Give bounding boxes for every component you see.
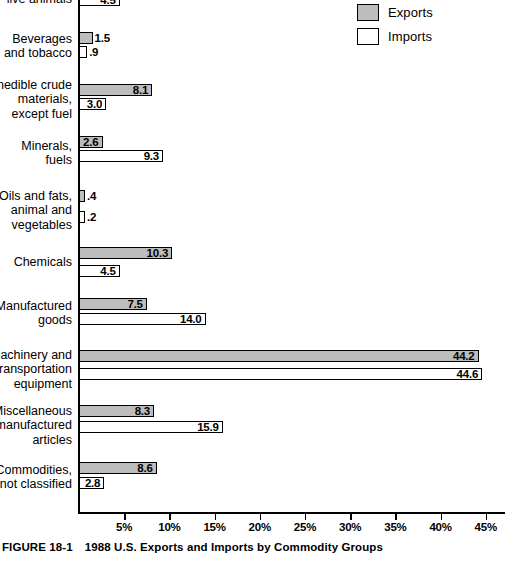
bar-value-label: .4 bbox=[87, 190, 96, 202]
bar-value-label: 44.6 bbox=[457, 368, 479, 380]
x-axis-tick-label: 45% bbox=[475, 521, 497, 533]
bar-value-label: .2 bbox=[87, 211, 96, 223]
bar-value-label: 4.5 bbox=[100, 0, 115, 6]
x-axis-tick bbox=[441, 513, 442, 520]
bar-imports bbox=[79, 211, 85, 223]
bar-value-label: 44.2 bbox=[453, 350, 475, 362]
x-axis-tick bbox=[305, 513, 306, 520]
x-axis-tick-label: 30% bbox=[339, 521, 361, 533]
figure-number: FIGURE 18-1 bbox=[2, 541, 73, 553]
bar-value-label: 2.6 bbox=[83, 136, 98, 148]
category-label: Miscellaneous manufactured articles bbox=[0, 404, 76, 447]
x-axis-tick bbox=[260, 513, 261, 520]
category-label: Minerals, fuels bbox=[0, 139, 76, 168]
bar-imports bbox=[79, 46, 87, 58]
bar-value-label: 8.1 bbox=[133, 84, 148, 96]
bar-exports bbox=[79, 190, 85, 202]
category-label: Machinery and transportation equipment bbox=[0, 348, 76, 391]
category-label: Chemicals bbox=[0, 255, 76, 269]
bar-exports bbox=[79, 32, 93, 44]
bar-value-label: 9.3 bbox=[144, 150, 159, 162]
x-axis-tick-label: 5% bbox=[116, 521, 132, 533]
category-label: live animals bbox=[0, 0, 76, 6]
bar-value-label: 1.5 bbox=[95, 32, 110, 44]
bar-value-label: .9 bbox=[89, 46, 98, 58]
x-axis-tick bbox=[486, 513, 487, 520]
bar-value-label: 15.9 bbox=[197, 421, 219, 433]
bar-value-label: 14.0 bbox=[180, 313, 202, 325]
category-label: Manufactured goods bbox=[0, 299, 76, 328]
x-axis-tick-label: 40% bbox=[429, 521, 451, 533]
x-axis-tick bbox=[350, 513, 351, 520]
bar-exports bbox=[79, 350, 479, 362]
category-label: Beverages and tobacco bbox=[0, 32, 76, 61]
x-axis-tick-label: 10% bbox=[158, 521, 180, 533]
x-axis-tick bbox=[395, 513, 396, 520]
x-axis-tick bbox=[124, 513, 125, 520]
bar-value-label: 4.5 bbox=[100, 265, 115, 277]
x-axis-tick bbox=[169, 513, 170, 520]
x-axis-tick-label: 20% bbox=[249, 521, 271, 533]
figure-caption: FIGURE 18-11988 U.S. Exports and Imports… bbox=[2, 541, 383, 553]
bar-value-label: 7.5 bbox=[127, 298, 142, 310]
category-label: Inedible crude materials, except fuel bbox=[0, 78, 76, 121]
x-axis-tick bbox=[215, 513, 216, 520]
x-axis-tick-label: 15% bbox=[203, 521, 225, 533]
bar-value-label: 3.0 bbox=[87, 98, 102, 110]
figure-caption-text: 1988 U.S. Exports and Imports by Commodi… bbox=[85, 541, 383, 553]
bar-value-label: 8.6 bbox=[137, 462, 152, 474]
category-label: Commodities, not classified bbox=[0, 463, 76, 492]
bar-value-label: 8.3 bbox=[135, 405, 150, 417]
category-label: Oils and fats, animal and vegetables bbox=[0, 189, 76, 232]
bar-imports bbox=[79, 368, 482, 380]
x-axis-tick-label: 25% bbox=[294, 521, 316, 533]
bar-chart-figure: Exports Imports 5%10%15%20%25%30%35%40%4… bbox=[0, 0, 505, 561]
bar-value-label: 10.3 bbox=[147, 247, 169, 259]
x-axis-tick-label: 35% bbox=[384, 521, 406, 533]
bar-value-label: 2.8 bbox=[85, 477, 100, 489]
plot-area: 5%10%15%20%25%30%35%40%45%live animals4.… bbox=[0, 0, 505, 515]
